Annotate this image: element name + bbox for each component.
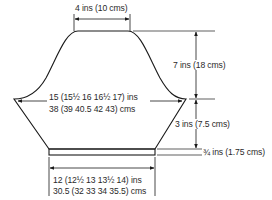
bottom-band <box>49 149 155 155</box>
top-width-label: 4 ins (10 cms) <box>75 3 128 13</box>
bottom-width-ins-label: 12 (12½ 13 13½ 14) ins <box>53 175 142 185</box>
band-height-label: ¾ ins (1.75 cms) <box>202 147 266 157</box>
garment-outline <box>14 31 186 149</box>
bottom-width-cms-label: 30.5 (32 33 34 35.5) cms <box>53 186 146 196</box>
upper-height-label: 7 ins (18 cms) <box>172 60 227 70</box>
garment-schematic-diagram: 4 ins (10 cms) 7 ins (18 cms) 15 (15½ 16… <box>0 0 272 200</box>
lower-height-label: 3 ins (7.5 cms) <box>174 119 231 129</box>
chest-width-cms-label: 38 (39 40.5 42 43) cms <box>49 104 135 114</box>
chest-width-ins-label: 15 (15½ 16 16½ 17) ins <box>49 92 138 102</box>
